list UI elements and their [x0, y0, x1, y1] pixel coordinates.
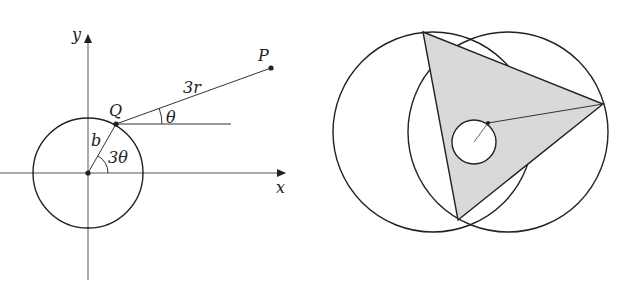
label-theta: θ	[166, 108, 176, 127]
label-3theta: 3θ	[108, 148, 128, 167]
label-y-axis: y	[71, 25, 82, 44]
label-b: b	[91, 131, 101, 150]
point-q	[113, 121, 118, 126]
right-figure	[333, 32, 608, 232]
left-figure: y x P Q 3r θ b 3θ	[0, 25, 285, 280]
label-x-axis: x	[276, 178, 285, 197]
tracer-point	[486, 121, 490, 125]
point-p	[268, 65, 273, 70]
figure-canvas: y x P Q 3r θ b 3θ	[0, 0, 627, 290]
label-point-q: Q	[109, 101, 122, 120]
angle-3theta-arc	[98, 156, 108, 173]
origin-point	[85, 170, 90, 175]
angle-theta-arc	[159, 108, 162, 124]
label-3r: 3r	[183, 78, 202, 97]
label-point-p: P	[257, 46, 269, 65]
